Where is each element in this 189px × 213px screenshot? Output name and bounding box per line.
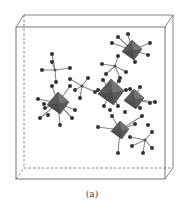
bond [55,68,70,70]
center-atom [118,128,121,131]
center-atom [113,64,116,67]
atom [133,60,137,64]
atom [141,151,145,155]
atom [133,122,137,126]
atom [146,123,150,127]
bond [132,140,145,146]
atom [130,144,134,148]
center-atom [130,48,133,51]
atom [140,114,144,118]
atom [128,135,132,139]
atom [146,53,150,57]
atom [68,84,72,88]
atom [148,41,152,45]
atom [42,102,46,106]
atom [38,116,42,120]
atom [116,151,120,155]
box-depth-edge [16,15,24,27]
atom [126,32,130,36]
box-depth-edge [165,168,173,179]
atom [50,60,54,64]
atom [117,79,121,83]
atom [40,68,44,72]
center-atom [53,68,56,71]
atom [96,88,100,92]
atom [86,76,90,80]
atom [43,106,47,110]
center-atom [80,84,83,87]
atom [100,62,104,66]
atom [58,123,62,127]
atom [68,66,72,70]
atom [150,130,154,134]
atom [110,114,114,118]
atom [73,88,77,92]
atom [116,54,120,58]
atom [46,113,50,117]
box-depth-edge [165,15,173,27]
atom [96,125,100,129]
atom [36,97,40,101]
atom [50,84,54,88]
atom [124,70,128,74]
atom [78,96,82,100]
atom [153,100,157,104]
atom [124,88,128,92]
center-atom [132,97,135,100]
atom [128,87,132,91]
atom [104,72,108,76]
atom [68,77,72,81]
simulation-box [16,15,173,179]
molecular-structure-figure [0,0,189,213]
atom [138,85,142,89]
atom [101,78,105,82]
atom [108,108,112,112]
bond [82,86,95,92]
bond [70,79,82,86]
atom [102,104,106,108]
bond [130,137,145,140]
atom [116,35,120,39]
atom [50,52,54,56]
atom [110,41,114,45]
atom [54,80,58,84]
figure-caption: (a) [0,189,184,199]
atom [116,104,120,108]
atom [70,116,74,120]
center-atom [109,90,112,93]
box-front-face [16,27,165,179]
box-depth-edge [16,168,24,179]
atom [123,110,127,114]
center-atom [56,101,59,104]
center-atom [143,138,146,141]
atom [73,108,77,112]
atom [148,101,152,105]
atom [150,146,154,150]
atom [138,106,142,110]
